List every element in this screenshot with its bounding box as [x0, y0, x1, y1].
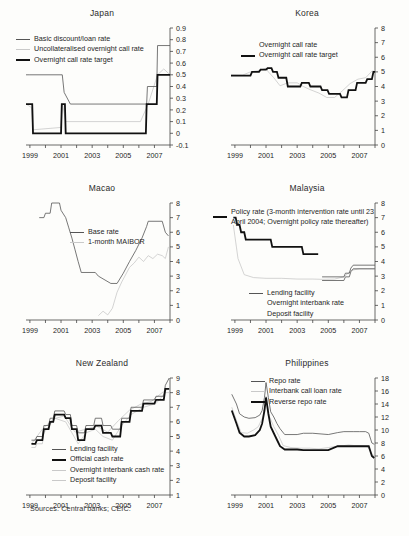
svg-text:8: 8	[381, 439, 385, 448]
legend-malaysia-facilities: Lending facility Overnight interbank rat…	[249, 288, 344, 319]
legend-swatch-line-icon	[52, 449, 66, 450]
svg-text:2001: 2001	[53, 151, 69, 160]
svg-text:7: 7	[381, 38, 385, 47]
svg-text:0.8: 0.8	[176, 35, 186, 44]
legend-japan: Basic discount/loan rate Uncollateralise…	[16, 34, 144, 65]
legend-item: Overnight call rate target	[241, 50, 338, 60]
svg-text:8: 8	[176, 388, 180, 397]
svg-text:2003: 2003	[84, 326, 100, 335]
svg-text:2001: 2001	[258, 151, 274, 160]
svg-text:3: 3	[381, 97, 385, 106]
legend-swatch-line-icon	[52, 459, 66, 461]
legend-item: Lending facility	[249, 288, 344, 298]
panel-japan: Japan -0.100.10.20.30.40.50.60.70.80.919…	[0, 8, 204, 183]
svg-text:1: 1	[176, 491, 180, 500]
svg-text:4: 4	[381, 465, 385, 474]
legend-swatch-line-icon	[70, 242, 84, 243]
svg-text:2005: 2005	[320, 151, 336, 160]
svg-text:2: 2	[381, 111, 385, 120]
legend-label: Repo rate	[269, 376, 301, 386]
legend-label: Deposit facility	[267, 309, 313, 319]
svg-text:2: 2	[176, 476, 180, 485]
svg-text:0: 0	[176, 316, 180, 325]
svg-text:7: 7	[176, 213, 180, 222]
panel-korea: Korea 01234567819992001200320052007 Over…	[205, 8, 409, 183]
source-note: Sources: Central banks; CEIC.	[30, 504, 131, 513]
panel-philippines: Philippines 0246810121416181999200120032…	[205, 358, 409, 533]
legend-label: 1-month MAIBOR	[88, 237, 145, 247]
legend-item: Repo rate	[251, 376, 342, 386]
svg-text:2003: 2003	[289, 501, 305, 510]
legend-item: Overnight interbank rate	[249, 298, 344, 308]
svg-text:0.4: 0.4	[176, 82, 186, 91]
legend-label: Overnight interbank cash rate	[70, 465, 164, 475]
panel-title-philippines: Philippines	[205, 358, 409, 368]
svg-text:1999: 1999	[227, 501, 243, 510]
svg-text:18: 18	[381, 374, 389, 383]
legend-item: Overnight call rate	[241, 40, 338, 50]
panel-title-korea: Korea	[205, 8, 409, 18]
svg-text:5: 5	[381, 242, 385, 251]
legend-label: Policy rate (3-month intervention rate u…	[231, 207, 381, 226]
legend-swatch-line-icon	[16, 49, 30, 50]
svg-text:8: 8	[381, 24, 385, 33]
legend-label: Uncollateralised overnight call rate	[34, 44, 144, 54]
svg-text:2007: 2007	[351, 501, 367, 510]
svg-text:2: 2	[381, 478, 385, 487]
panel-title-japan: Japan	[0, 8, 204, 18]
svg-text:3: 3	[381, 272, 385, 281]
svg-text:0.5: 0.5	[176, 70, 186, 79]
svg-text:1999: 1999	[227, 326, 243, 335]
svg-text:0: 0	[381, 316, 385, 325]
legend-swatch-line-icon	[52, 470, 66, 471]
svg-text:14: 14	[381, 400, 389, 409]
svg-text:0: 0	[176, 129, 180, 138]
legend-label: Overnight call rate	[259, 40, 317, 50]
svg-text:2007: 2007	[351, 151, 367, 160]
legend-item: Reverse repo rate	[251, 397, 342, 407]
legend-korea: Overnight call rate Overnight call rate …	[241, 40, 338, 61]
svg-text:2005: 2005	[115, 151, 131, 160]
legend-label: Basic discount/loan rate	[34, 34, 110, 44]
legend-item: Interbank call loan rate	[251, 386, 342, 396]
svg-text:1: 1	[176, 301, 180, 310]
legend-label: Base rate	[88, 227, 119, 237]
legend-item: Base rate	[70, 227, 145, 237]
svg-text:7: 7	[381, 213, 385, 222]
panel-title-malaysia: Malaysia	[205, 183, 409, 193]
svg-text:5: 5	[381, 67, 385, 76]
svg-text:6: 6	[381, 452, 385, 461]
legend-item: Basic discount/loan rate	[16, 34, 144, 44]
svg-text:0.7: 0.7	[176, 47, 186, 56]
svg-text:4: 4	[381, 257, 385, 266]
svg-text:2003: 2003	[289, 151, 305, 160]
legend-philippines: Repo rate Interbank call loan rate Rever…	[251, 376, 342, 407]
svg-text:0.1: 0.1	[176, 117, 186, 126]
svg-text:5: 5	[176, 432, 180, 441]
legend-item: Uncollateralised overnight call rate	[16, 44, 144, 54]
svg-text:6: 6	[381, 53, 385, 62]
svg-text:9: 9	[176, 374, 180, 383]
svg-text:2001: 2001	[258, 501, 274, 510]
svg-text:1999: 1999	[22, 326, 38, 335]
svg-text:4: 4	[176, 447, 180, 456]
legend-new-zealand: Lending facility Official cash rate Over…	[52, 444, 164, 486]
svg-text:2005: 2005	[320, 501, 336, 510]
legend-item: Overnight interbank cash rate	[52, 465, 164, 475]
svg-text:7: 7	[176, 403, 180, 412]
panel-malaysia: Malaysia 01234567819992001200320052007 P…	[205, 183, 409, 358]
svg-text:2: 2	[381, 286, 385, 295]
legend-label: Official cash rate	[70, 454, 123, 464]
legend-macao: Base rate 1-month MAIBOR	[70, 227, 145, 248]
svg-text:0.9: 0.9	[176, 24, 186, 33]
svg-text:0.3: 0.3	[176, 94, 186, 103]
svg-text:2: 2	[176, 286, 180, 295]
svg-text:2003: 2003	[84, 151, 100, 160]
legend-item: Official cash rate	[52, 454, 164, 464]
svg-text:8: 8	[381, 199, 385, 208]
legend-label: Lending facility	[267, 288, 315, 298]
svg-text:2007: 2007	[146, 326, 162, 335]
legend-item: 1-month MAIBOR	[70, 237, 145, 247]
svg-text:4: 4	[381, 82, 385, 91]
svg-text:2005: 2005	[320, 326, 336, 335]
